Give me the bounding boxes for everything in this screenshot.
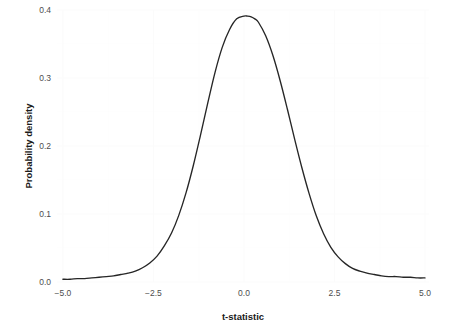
x-tick-label-3: 2.5 <box>329 288 341 298</box>
y-axis-tick-labels: 0.00.10.20.30.4 <box>39 5 51 287</box>
y-tick-label-3: 0.3 <box>39 73 51 83</box>
x-axis-title: t-statistic <box>222 311 264 322</box>
y-axis-title: Probability density <box>23 103 34 189</box>
x-axis-tick-labels: −5.0−2.50.02.55.0 <box>55 288 432 298</box>
x-tick-label-2: 0.0 <box>238 288 250 298</box>
x-tick-label-0: −5.0 <box>55 288 72 298</box>
y-tick-label-0: 0.0 <box>39 277 51 287</box>
y-tick-label-4: 0.4 <box>39 5 51 15</box>
density-plot-svg: −5.0−2.50.02.55.0 0.00.10.20.30.4 t-stat… <box>0 0 449 332</box>
x-tick-label-4: 5.0 <box>419 288 431 298</box>
y-tick-label-1: 0.1 <box>39 209 51 219</box>
y-tick-label-2: 0.2 <box>39 141 51 151</box>
x-tick-label-1: −2.5 <box>145 288 162 298</box>
chart-figure: −5.0−2.50.02.55.0 0.00.10.20.30.4 t-stat… <box>0 0 449 332</box>
